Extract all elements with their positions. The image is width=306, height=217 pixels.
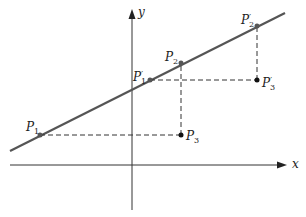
label-p3-prime: P3′ [262, 76, 272, 92]
x-axis-arrow-icon [277, 162, 287, 169]
label-p1: P1 [26, 121, 39, 136]
label-p1-prime: P1′ [133, 70, 143, 86]
point-p2 [179, 61, 184, 66]
x-axis-label: x [292, 158, 299, 170]
point-p2-prime [255, 24, 260, 29]
point-p3-prime [255, 78, 260, 83]
point-p3 [179, 133, 184, 138]
label-p2-prime: P2′ [241, 13, 251, 29]
y-axis-label: y [138, 6, 145, 18]
diagram-canvas [0, 0, 306, 217]
y-axis-arrow-icon [129, 9, 136, 19]
label-p3: P3 [186, 130, 199, 145]
point-p1-prime [148, 78, 153, 83]
sloped-line [10, 13, 285, 151]
label-p2: P2 [165, 51, 178, 66]
